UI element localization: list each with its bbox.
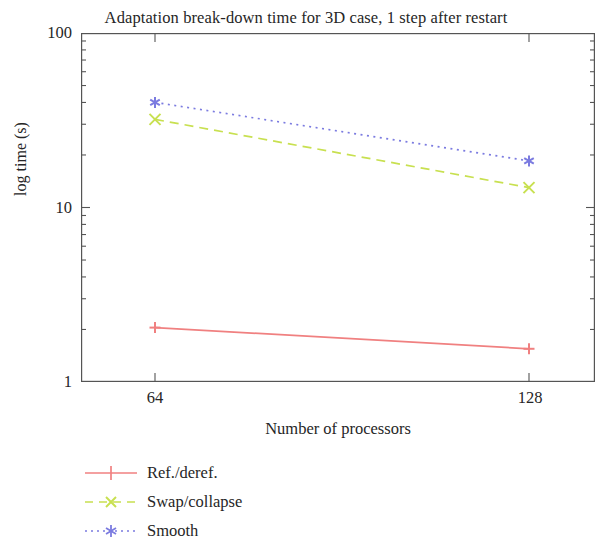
y-axis-ticks bbox=[81, 33, 90, 382]
x-tick-label-128: 128 bbox=[490, 388, 570, 408]
data-point-marker bbox=[524, 343, 535, 354]
asterisk-marker-icon bbox=[84, 520, 138, 542]
legend-label-ref-deref: Ref./deref. bbox=[147, 463, 218, 483]
axis-frame bbox=[82, 34, 595, 382]
cross-marker-icon bbox=[84, 491, 138, 513]
plot-canvas bbox=[81, 33, 595, 382]
legend-key-ref-deref bbox=[84, 462, 138, 484]
y-tick-label-1: 1 bbox=[8, 372, 72, 392]
legend-item-smooth: Smooth bbox=[84, 516, 384, 545]
series-ref-deref bbox=[150, 322, 535, 354]
chart-title: Adaptation break-down time for 3D case, … bbox=[0, 8, 612, 28]
x-axis-title: Number of processors bbox=[81, 419, 595, 439]
series-line bbox=[155, 119, 529, 187]
plus-marker-icon bbox=[84, 462, 138, 484]
series-line bbox=[155, 328, 529, 349]
legend-label-swap-collapse: Swap/collapse bbox=[147, 492, 242, 512]
y-axis-ticks-right bbox=[586, 33, 595, 382]
legend-key-smooth bbox=[84, 520, 138, 542]
plot-area bbox=[81, 33, 595, 382]
data-point-marker bbox=[524, 155, 534, 166]
legend-item-swap-collapse: Swap/collapse bbox=[84, 487, 384, 516]
series-smooth bbox=[150, 97, 534, 166]
x-axis-ticks bbox=[155, 33, 529, 382]
legend-item-ref-deref: Ref./deref. bbox=[84, 458, 384, 487]
x-tick-label-64: 64 bbox=[115, 388, 195, 408]
y-tick-label-100: 100 bbox=[8, 23, 72, 43]
chart-figure: Adaptation break-down time for 3D case, … bbox=[0, 0, 612, 545]
series-line bbox=[155, 102, 529, 160]
y-tick-label-10: 10 bbox=[8, 198, 72, 218]
chart-legend: Ref./deref. Swap/collapse bbox=[84, 458, 384, 545]
data-point-marker bbox=[150, 97, 160, 108]
data-point-marker bbox=[150, 322, 161, 333]
legend-label-smooth: Smooth bbox=[147, 521, 198, 541]
series-layer bbox=[150, 97, 535, 354]
legend-key-swap-collapse bbox=[84, 491, 138, 513]
